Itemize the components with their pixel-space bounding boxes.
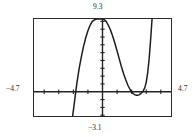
plot-canvas: [34, 19, 171, 116]
x-min-label: −4.7: [6, 85, 20, 93]
function-curve: [73, 19, 152, 116]
x-max-label: 4.7: [178, 85, 187, 93]
y-max-label: 9.3: [93, 3, 102, 11]
graph-viewport: [33, 18, 172, 117]
y-min-label: −3.1: [88, 124, 102, 132]
graph-screenshot: 9.3 −3.1 −4.7 4.7: [0, 0, 196, 137]
